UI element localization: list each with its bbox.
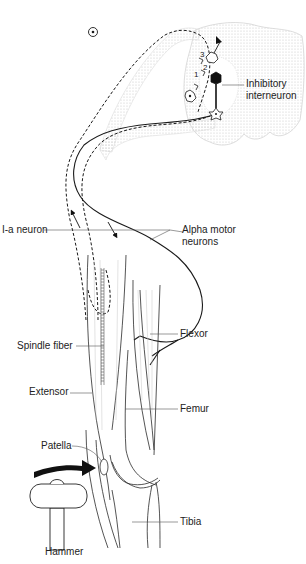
reflex-hammer <box>30 480 87 551</box>
synapse-number-2: 2 <box>203 63 207 72</box>
label-alpha-motor-neurons: Alpha motor neurons <box>182 224 236 248</box>
synapse-number-3: 3 <box>200 50 204 59</box>
label-ia-neuron: I-a neuron <box>2 224 48 236</box>
label-spindle-fiber: Spindle fiber <box>17 340 73 352</box>
label-hammer: Hammer <box>45 546 83 558</box>
patella <box>100 459 108 475</box>
label-extensor: Extensor <box>29 386 68 398</box>
label-flexor: Flexor <box>180 328 208 340</box>
dorsal-root-ganglion-cell <box>89 28 98 37</box>
signal-direction-arrows <box>72 212 116 236</box>
stretch-reflex-diagram: Inhibitory interneuron I-a neuron Alpha … <box>0 0 306 564</box>
label-inhibitory-interneuron: Inhibitory interneuron <box>246 78 297 102</box>
strike-arrow-icon <box>34 460 96 478</box>
label-femur: Femur <box>180 403 209 415</box>
label-patella: Patella <box>41 440 72 452</box>
leader-lines <box>44 230 183 522</box>
synapse-number-1: 1 <box>194 70 198 79</box>
label-tibia: Tibia <box>180 516 201 528</box>
